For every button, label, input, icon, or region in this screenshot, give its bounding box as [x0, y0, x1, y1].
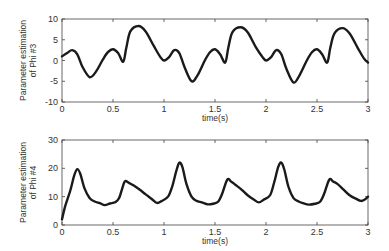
y-tick-label: 20: [48, 163, 58, 173]
axes-frame: [62, 19, 368, 102]
y-tick-label: -5: [50, 76, 58, 86]
x-tick-label: 2: [263, 104, 268, 114]
data-series-line: [62, 162, 368, 219]
x-tick-label: 0.5: [107, 227, 120, 237]
x-axis-label: time(s): [202, 113, 228, 123]
y-tick-label: 10: [48, 14, 58, 24]
subplot-phi4: 00.511.522.530102030time(s)Parameter est…: [18, 135, 371, 246]
x-tick-label: 0: [59, 227, 64, 237]
y-axis-label: Parameter estimationof Phi #4: [18, 142, 38, 223]
axes-frame: [62, 140, 368, 225]
data-series-line: [62, 26, 368, 83]
subplot-phi3: 00.511.522.53-10-50510time(s)Parameter e…: [18, 14, 371, 123]
x-axis-label: time(s): [202, 236, 228, 246]
x-tick-label: 3: [365, 227, 370, 237]
x-tick-label: 0.5: [107, 104, 120, 114]
x-tick-label: 2.5: [311, 227, 324, 237]
x-tick-label: 1: [161, 104, 166, 114]
x-tick-label: 1: [161, 227, 166, 237]
y-tick-label: 5: [53, 35, 58, 45]
x-tick-label: 0: [59, 104, 64, 114]
y-tick-label: -10: [45, 97, 58, 107]
y-axis-label: Parameter estimationof Phi #3: [18, 20, 38, 101]
x-tick-label: 2.5: [311, 104, 324, 114]
y-tick-label: 10: [48, 192, 58, 202]
figure: 00.511.522.53-10-50510time(s)Parameter e…: [0, 0, 389, 251]
y-tick-label: 0: [53, 56, 58, 66]
y-tick-label: 0: [53, 220, 58, 230]
x-tick-label: 2: [263, 227, 268, 237]
x-tick-label: 3: [365, 104, 370, 114]
y-tick-label: 30: [48, 135, 58, 145]
